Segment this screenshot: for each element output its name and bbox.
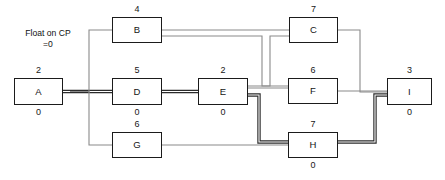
node-b-duration: 4 [112,5,162,14]
node-e-label: E [220,87,227,97]
node-d-label: D [133,87,140,97]
node-a-duration: 2 [14,66,64,75]
node-e-duration: 2 [198,66,248,75]
node-b-label: B [134,25,141,35]
edge-h-i-critical [338,95,387,142]
edge-e-h-core [248,95,288,142]
node-c-label: C [310,25,317,35]
node-a-label: A [35,87,42,97]
node-e-float: 0 [198,108,248,117]
node-f[interactable]: F [288,78,338,104]
edge-c-i [338,30,387,92]
node-h-label: H [309,140,316,150]
node-d[interactable]: D [112,78,162,105]
node-g-label: G [133,140,141,150]
edge-a-g [70,92,112,146]
node-a[interactable]: A [14,78,63,105]
node-f-duration: 6 [288,66,338,75]
node-i[interactable]: I [387,78,432,105]
node-f-label: F [310,86,316,96]
node-h[interactable]: H [288,132,338,158]
edge-e-c [248,36,289,86]
node-g[interactable]: G [112,132,162,158]
float-on-cp-annotation: Float on CP =0 [6,28,90,50]
node-d-duration: 5 [112,66,162,75]
node-i-label: I [408,87,411,97]
node-g-duration: 6 [112,120,162,129]
node-c[interactable]: C [289,17,338,43]
float-on-cp-line1: Float on CP [6,28,90,39]
node-h-float: 0 [288,161,338,170]
network-diagram: Float on CP =0 A20B4D50G6E20C7F6H70I30 [0,0,445,180]
edge-e-h-critical [248,95,288,142]
node-c-duration: 7 [289,5,339,14]
node-b[interactable]: B [112,17,162,43]
float-on-cp-line2: =0 [6,39,90,50]
node-h-duration: 7 [288,120,338,129]
node-i-float: 0 [385,108,435,117]
node-a-float: 0 [14,108,64,117]
node-d-float: 0 [112,108,162,117]
node-e[interactable]: E [198,78,248,105]
node-i-duration: 3 [385,66,435,75]
edge-h-i-core [338,95,387,142]
